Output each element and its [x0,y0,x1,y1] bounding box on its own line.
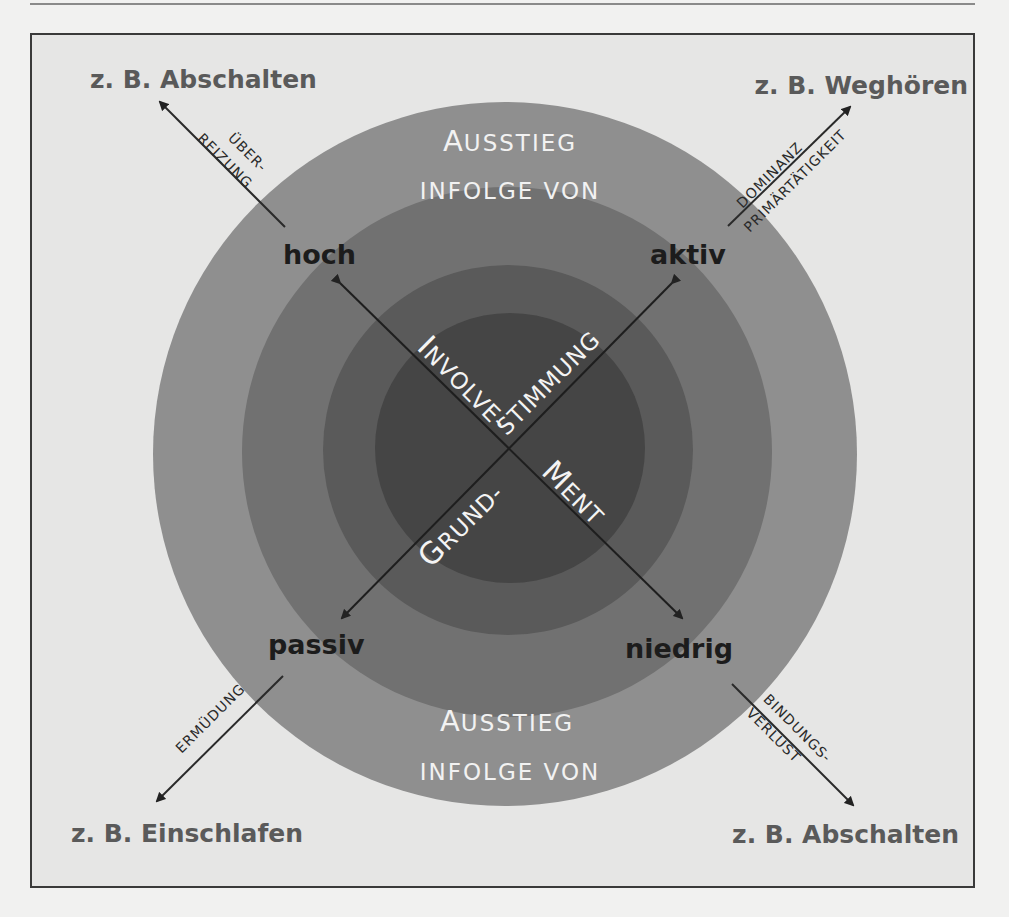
exit-bottom-line2: INFOLGE VON [420,759,600,785]
example-bottom-left: z. B. Einschlafen [71,819,303,848]
exit-bottom-line1: AUSSTIEG [440,704,574,738]
cause-bottom-left: ERMÜDUNG [172,680,249,757]
pole-niedrig: niedrig [625,633,733,664]
pole-hoch: hoch [283,239,356,270]
pole-passiv: passiv [268,629,365,660]
example-top-left: z. B. Abschalten [90,65,317,94]
exit-top-line2: INFOLGE VON [420,178,600,204]
example-top-right: z. B. Weghören [754,71,968,100]
example-bottom-right: z. B. Abschalten [732,820,959,849]
exit-arrow-bottom-left [157,676,283,801]
pole-aktiv: aktiv [650,239,726,270]
exit-top-line1: AUSSTIEG [443,124,577,158]
involvement-mood-diagram: z. B. Abschalten z. B. Weghören z. B. Ei… [0,0,1009,917]
